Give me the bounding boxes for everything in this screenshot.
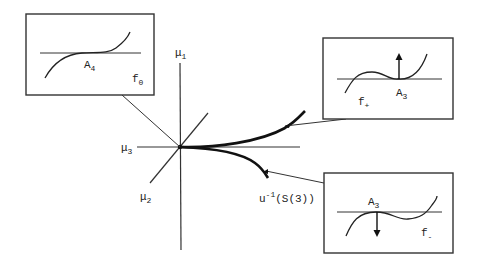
fminus-label-subscript: -	[428, 232, 433, 241]
cusp-upper-branch	[180, 111, 305, 147]
mu1-axis	[180, 63, 181, 250]
inset-f0-function-label: f0	[132, 74, 143, 85]
leader-lines	[122, 95, 346, 183]
a3-minus-label-base: A	[368, 196, 375, 208]
inset-fminus-singularity-label: A3	[368, 197, 379, 208]
mu3-label-subscript: 3	[128, 147, 133, 156]
mu2-label: μ2	[140, 192, 151, 203]
mu2-label-subscript: 2	[147, 196, 152, 205]
fplus-label-subscript: +	[365, 101, 370, 110]
mu1-label-subscript: 1	[182, 52, 187, 61]
curve-label-argument: (S(3))	[275, 193, 315, 205]
axes	[137, 63, 300, 250]
curve-label-superscript: -1	[266, 190, 276, 199]
inset-fminus-function-label: f-	[421, 228, 432, 239]
fplus-label-base: f	[358, 96, 365, 108]
diagram-canvas	[0, 0, 483, 270]
leader-f0	[122, 95, 180, 147]
curve-label: u-1(S(3))	[259, 194, 315, 205]
mu3-label-base: μ	[121, 142, 128, 154]
inset-fplus-singularity-label: A3	[396, 88, 407, 99]
cusp-curve	[178, 111, 305, 178]
a4-label-subscript: 4	[91, 64, 96, 73]
inset-fplus	[323, 38, 453, 119]
cusp-lower-branch	[180, 147, 268, 178]
curve-label-main: u	[259, 193, 266, 205]
a3-plus-label-base: A	[396, 87, 403, 99]
inset-f0-singularity-label: A4	[84, 60, 95, 71]
f0-label-subscript: 0	[139, 78, 144, 87]
fminus-label-base: f	[421, 227, 428, 239]
inset-fminus	[324, 173, 453, 253]
mu1-label-base: μ	[175, 47, 182, 59]
mu3-label: μ3	[121, 143, 132, 154]
mu1-label: μ1	[175, 48, 186, 59]
a3-plus-label-subscript: 3	[403, 92, 408, 101]
inset-fplus-function-label: f+	[358, 97, 369, 108]
mu2-label-base: μ	[140, 191, 147, 203]
f0-label-base: f	[132, 73, 139, 85]
a4-label-base: A	[84, 59, 91, 71]
a3-minus-label-subscript: 3	[375, 201, 380, 210]
leader-fminus	[266, 171, 324, 183]
